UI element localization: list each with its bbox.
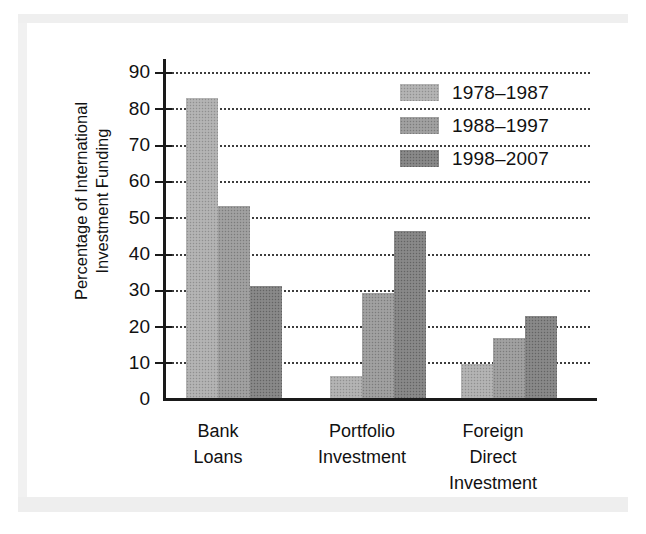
chart-legend: 1978–1987 1988–1997 1998–2007: [400, 76, 549, 175]
gridline-60: [168, 181, 590, 183]
y-axis-title-line2: Investment Funding: [92, 51, 113, 351]
y-tick-60: [155, 181, 172, 183]
plot-area: 90 80 70 60 50 40 30 20 10 0 Percentage …: [0, 0, 646, 534]
y-axis-title-line1: Percentage of International: [71, 51, 92, 351]
y-tick-label-90: 90: [110, 62, 150, 81]
legend-label-1998-2007: 1998–2007: [452, 148, 549, 170]
y-tick-label-0: 0: [110, 389, 150, 408]
legend-label-1978-1987: 1978–1987: [452, 82, 549, 104]
bar-bank-loans-1988-1997: [218, 206, 250, 398]
y-tick-label-50: 50: [110, 208, 150, 227]
bar-foreign-direct-investment-1988-1997: [493, 338, 525, 398]
y-tick-label-10: 10: [110, 353, 150, 372]
legend-item-1978-1987: 1978–1987: [400, 76, 549, 109]
legend-swatch-1978-1987-icon: [400, 84, 439, 101]
legend-label-1988-1997: 1988–1997: [452, 115, 549, 137]
x-category-fdi-line1: Foreign: [398, 418, 588, 444]
gridline-90: [168, 72, 590, 74]
legend-swatch-1988-1997-icon: [400, 117, 439, 134]
y-tick-label-70: 70: [110, 135, 150, 154]
y-tick-label-60: 60: [110, 171, 150, 190]
bar-portfolio-investment-1978-1987: [330, 376, 362, 398]
y-tick-30: [155, 290, 172, 292]
bar-portfolio-investment-1998-2007: [394, 231, 426, 398]
legend-swatch-1998-2007-icon: [400, 150, 439, 167]
bar-foreign-direct-investment-1998-2007: [525, 316, 557, 398]
bar-bank-loans-1998-2007: [250, 286, 282, 398]
y-axis-title: Percentage of International Investment F…: [71, 51, 113, 351]
y-tick-90: [155, 72, 172, 74]
y-tick-70: [155, 145, 172, 147]
y-tick-80: [155, 108, 172, 110]
bar-bank-loans-1978-1987: [186, 98, 218, 398]
y-tick-20: [155, 326, 172, 328]
chart-figure: 90 80 70 60 50 40 30 20 10 0 Percentage …: [0, 0, 646, 534]
y-tick-10: [155, 362, 172, 364]
x-axis-line: [163, 398, 597, 401]
y-tick-label-30: 30: [110, 280, 150, 299]
y-tick-50: [155, 217, 172, 219]
x-category-label-foreign-direct-investment: Foreign Direct Investment: [398, 418, 588, 496]
x-category-fdi-line3: Investment: [398, 470, 588, 496]
x-category-fdi-line2: Direct: [398, 444, 588, 470]
y-tick-label-20: 20: [110, 317, 150, 336]
legend-item-1988-1997: 1988–1997: [400, 109, 549, 142]
bar-portfolio-investment-1988-1997: [362, 293, 394, 398]
legend-item-1998-2007: 1998–2007: [400, 142, 549, 175]
y-axis-line: [163, 59, 166, 400]
y-tick-label-80: 80: [110, 99, 150, 118]
y-tick-label-40: 40: [110, 244, 150, 263]
bar-foreign-direct-investment-1978-1987: [461, 364, 493, 398]
y-tick-40: [155, 254, 172, 256]
